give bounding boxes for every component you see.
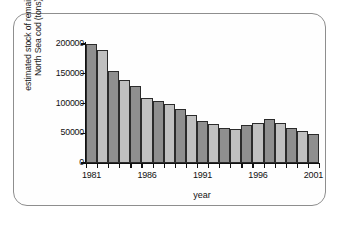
x-tick-mark bbox=[97, 163, 98, 168]
x-tick-label: 1986 bbox=[127, 170, 167, 180]
y-tick-label: 150000 bbox=[56, 68, 84, 78]
x-tick-mark bbox=[164, 163, 165, 168]
x-tick-label: 2001 bbox=[293, 170, 333, 180]
x-tick-mark bbox=[86, 163, 87, 168]
bar-series bbox=[86, 44, 319, 163]
bar bbox=[130, 86, 141, 163]
x-tick-mark bbox=[230, 163, 231, 168]
x-tick-mark bbox=[219, 163, 220, 168]
bar bbox=[197, 121, 208, 163]
x-tick-mark bbox=[241, 163, 242, 168]
x-tick-mark bbox=[319, 163, 320, 168]
x-tick-mark bbox=[141, 163, 142, 168]
x-tick-mark bbox=[252, 163, 253, 168]
x-tick-mark bbox=[264, 163, 265, 168]
x-tick-label: 1981 bbox=[72, 170, 112, 180]
bar bbox=[119, 80, 130, 163]
bar bbox=[97, 50, 108, 163]
x-tick-mark bbox=[108, 163, 109, 168]
x-tick-mark bbox=[186, 163, 187, 168]
x-tick-mark bbox=[308, 163, 309, 168]
bar bbox=[164, 104, 175, 164]
y-tick-label: 200000 bbox=[56, 38, 84, 48]
x-tick-mark bbox=[130, 163, 131, 168]
x-tick-mark bbox=[153, 163, 154, 168]
x-tick-label: 1996 bbox=[238, 170, 278, 180]
x-tick-label: 1991 bbox=[183, 170, 223, 180]
x-tick-mark bbox=[286, 163, 287, 168]
bar bbox=[275, 123, 286, 163]
bar bbox=[264, 119, 275, 163]
bar bbox=[219, 128, 230, 163]
bar bbox=[153, 101, 164, 163]
bar bbox=[208, 124, 219, 163]
bar bbox=[308, 134, 319, 163]
bar bbox=[241, 125, 252, 163]
bar bbox=[286, 128, 297, 163]
x-tick-mark bbox=[197, 163, 198, 168]
x-tick-mark bbox=[275, 163, 276, 168]
bar bbox=[175, 109, 186, 163]
bar bbox=[230, 129, 241, 164]
bar bbox=[108, 71, 119, 163]
bar bbox=[186, 115, 197, 163]
x-tick-mark bbox=[119, 163, 120, 168]
bar bbox=[252, 123, 263, 163]
bar bbox=[297, 131, 308, 163]
x-tick-mark bbox=[175, 163, 176, 168]
y-tick-label: 100000 bbox=[56, 98, 84, 108]
x-tick-mark bbox=[208, 163, 209, 168]
x-tick-mark bbox=[297, 163, 298, 168]
bar bbox=[86, 44, 97, 163]
x-axis-title: year bbox=[85, 190, 319, 200]
bar bbox=[141, 98, 152, 163]
